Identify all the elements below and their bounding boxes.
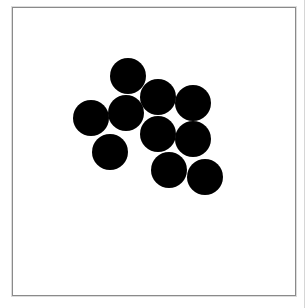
dot-cluster xyxy=(73,58,223,195)
dot xyxy=(140,116,176,152)
dot xyxy=(110,58,146,94)
dot xyxy=(175,121,211,157)
dot xyxy=(151,152,187,188)
dot xyxy=(140,79,176,115)
dot xyxy=(108,95,144,131)
dot xyxy=(73,100,109,136)
dot xyxy=(187,159,223,195)
dot xyxy=(92,134,128,170)
dot xyxy=(175,85,211,121)
dot-cluster-canvas xyxy=(0,0,307,308)
